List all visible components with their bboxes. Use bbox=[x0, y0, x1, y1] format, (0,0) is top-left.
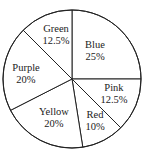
slice-label-green: Green 12.5% bbox=[42, 23, 69, 47]
slice-label-yellow: Yellow 20% bbox=[39, 106, 69, 130]
pie-chart: Blue 25% Pink 12.5% Red 10% Yellow 20% P… bbox=[0, 0, 142, 154]
slice-label-red: Red 10% bbox=[85, 109, 104, 133]
slice-label-blue: Blue 25% bbox=[85, 39, 105, 63]
slice-label-pink: Pink 12.5% bbox=[100, 82, 127, 106]
slice-label-purple: Purple 20% bbox=[12, 62, 39, 86]
pie-slice-blue bbox=[72, 10, 141, 79]
